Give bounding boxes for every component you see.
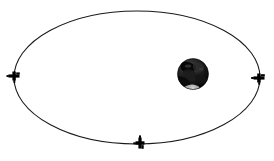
earth-sphere [175,59,208,92]
orbit-ellipse [14,11,260,144]
satellite-right [251,74,265,85]
satellite-bottom [133,135,144,148]
satellite-left [7,72,20,83]
orbit-diagram: Satellite constellation in elliptical or… [0,0,274,161]
orbit-canvas [0,0,274,161]
